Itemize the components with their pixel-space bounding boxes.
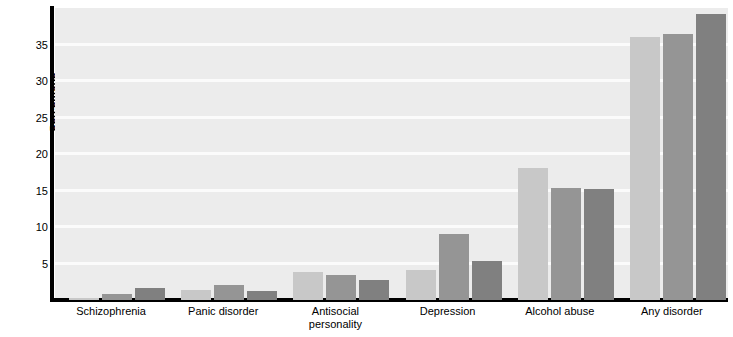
y-axis-line <box>50 6 54 302</box>
x-axis-labels: SchizophreniaPanic disorderAntisocialper… <box>55 305 728 337</box>
y-tick-label: 30 <box>28 75 48 87</box>
bar <box>439 234 469 300</box>
bar-group <box>181 8 279 300</box>
x-tick-label-line: Schizophrenia <box>55 305 167 318</box>
bar <box>293 272 323 300</box>
y-tick-label: 5 <box>28 258 48 270</box>
bar-group <box>69 8 167 300</box>
x-tick-label: Schizophrenia <box>55 305 167 318</box>
bar <box>663 34 693 300</box>
y-tick-label: 35 <box>28 39 48 51</box>
bar-chart: Percentage 5101520253035 SchizophreniaPa… <box>0 0 733 337</box>
x-tick-label-line: personality <box>279 318 391 331</box>
bar-group <box>293 8 391 300</box>
bar <box>359 280 389 300</box>
bar-group <box>406 8 504 300</box>
bar <box>696 14 726 300</box>
bar <box>247 291 277 300</box>
x-tick-label-line: Antisocial <box>279 305 391 318</box>
x-tick-label: Depression <box>392 305 504 318</box>
bar <box>181 290 211 300</box>
x-tick-label: Panic disorder <box>167 305 279 318</box>
y-tick-label: 20 <box>28 148 48 160</box>
bar-groups <box>55 8 728 300</box>
x-tick-label: Any disorder <box>616 305 728 318</box>
y-tick-label: 25 <box>28 112 48 124</box>
bar <box>406 270 436 300</box>
bar <box>472 261 502 300</box>
x-tick-label-line: Depression <box>392 305 504 318</box>
x-tick-label: Alcohol abuse <box>504 305 616 318</box>
bar <box>584 189 614 300</box>
x-tick-label-line: Any disorder <box>616 305 728 318</box>
bar <box>551 188 581 300</box>
bar <box>630 37 660 300</box>
bar <box>69 298 99 300</box>
x-tick-label-line: Panic disorder <box>167 305 279 318</box>
bar <box>326 275 356 300</box>
bar <box>214 285 244 300</box>
bar-group <box>630 8 728 300</box>
bar <box>135 288 165 300</box>
x-tick-label: Antisocialpersonality <box>279 305 391 331</box>
bar-group <box>518 8 616 300</box>
bar <box>102 294 132 300</box>
x-tick-label-line: Alcohol abuse <box>504 305 616 318</box>
y-tick-label: 15 <box>28 185 48 197</box>
y-tick-label: 10 <box>28 221 48 233</box>
bar <box>518 168 548 300</box>
